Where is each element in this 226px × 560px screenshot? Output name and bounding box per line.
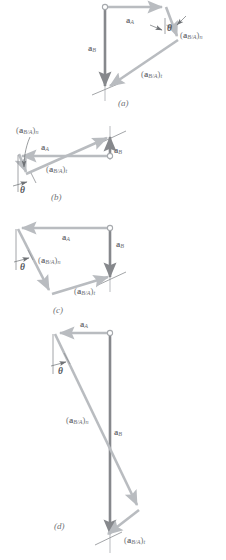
label-aBA-n-panel-d: (aB/A)n: [66, 416, 88, 425]
panel-d-vectors: [51, 330, 139, 553]
label-aB-subscript: B: [118, 431, 122, 437]
label-aBA-t-panel-c: (aB/A)t: [74, 287, 95, 296]
figure-container: aA aB (aB/A)n (aB/A)t θ (a) (aB/A)n aA a…: [0, 0, 226, 560]
label-aBA-t-suffix: t: [143, 539, 145, 545]
theta-angle-arm-b: [31, 173, 36, 183]
panel-b-vectors: [13, 126, 126, 192]
joint-node-panel-d: [107, 330, 112, 335]
vector-diagram-canvas: [0, 0, 226, 560]
label-aB-subscript: B: [92, 47, 96, 53]
label-aB-subscript: B: [118, 149, 122, 155]
label-aB-subscript: B: [120, 243, 124, 249]
label-aBA-t-panel-a: (aB/A)t: [141, 70, 162, 79]
panel-a-vectors: [92, 4, 186, 101]
label-aBA-n-panel-c: (aB/A)n: [38, 256, 60, 265]
label-aA-panel-b: aA: [41, 143, 49, 152]
label-aB-panel-d: aB: [114, 428, 122, 437]
label-aA-panel-d: aA: [80, 320, 88, 329]
theta-leader-right-a: [177, 16, 186, 25]
label-aA-subscript: A: [66, 236, 70, 242]
label-aA-panel-a: aA: [126, 16, 134, 25]
label-aBA-t-panel-d: (aB/A)t: [124, 536, 145, 545]
joint-node-panel-b: [107, 153, 112, 158]
label-aA-panel-c: aA: [62, 233, 70, 242]
caption-panel-d: (d): [54, 522, 65, 531]
label-aB-panel-a: aB: [88, 44, 96, 53]
joint-node-panel-c: [107, 225, 112, 230]
label-aBA-n-suffix: n: [57, 259, 60, 265]
label-aBA-t-suffix: t: [160, 73, 162, 79]
label-aBA-t-panel-b: (aB/A)t: [46, 165, 67, 174]
label-aBA-t-suffix: t: [93, 290, 95, 296]
label-aBA-t-suffix: t: [65, 168, 67, 174]
label-aA-subscript: A: [84, 323, 88, 329]
label-theta-panel-a: θ: [167, 24, 172, 34]
callout-leader-aBA-n-panel-b: [24, 137, 30, 167]
caption-panel-b: (b): [51, 193, 62, 202]
label-aA-subscript: A: [45, 146, 49, 152]
label-aBA-n-panel-b: (aB/A)n: [16, 126, 38, 135]
label-theta-panel-c: θ: [20, 263, 25, 273]
vector-aBA-t-panel-d: [108, 510, 139, 534]
label-theta-panel-d: θ: [58, 367, 63, 377]
label-aBA-n-panel-a: (aB/A)n: [180, 31, 202, 40]
label-aBA-n-suffix: n: [35, 129, 38, 135]
theta-leader-left-a: [150, 25, 162, 30]
label-theta-panel-b: θ: [20, 186, 25, 196]
label-aB-panel-c: aB: [116, 240, 124, 249]
label-aA-subscript: A: [130, 19, 134, 25]
label-aBA-n-suffix: n: [85, 419, 88, 425]
caption-panel-c: (c): [53, 306, 63, 315]
label-aB-panel-b: aB: [114, 146, 122, 155]
joint-node-panel-a: [102, 4, 107, 9]
caption-panel-a: (a): [118, 99, 129, 108]
label-aBA-n-suffix: n: [199, 34, 202, 40]
